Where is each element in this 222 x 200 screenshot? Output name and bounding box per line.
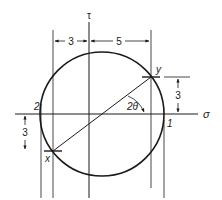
dim-top-left-label: 3 [68,36,74,47]
point-x-label: x [44,153,51,164]
dim-left-label: 3 [22,127,28,138]
sigma-axis-label: σ [203,108,210,120]
dim-right-label: 3 [175,90,181,101]
angle-label: 2θ [126,101,139,112]
principal-1-label: 1 [167,118,173,129]
point-y-label: y [155,64,162,75]
mohr-circle-diagram: τ σ 3 5 3 3 y x 2 1 2θ [0,0,222,200]
dim-top-right-label: 5 [116,36,122,47]
tau-axis-label: τ [87,10,91,21]
principal-2-label: 2 [33,101,40,112]
